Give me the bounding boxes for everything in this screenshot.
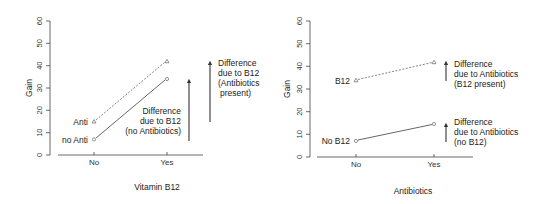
right-ann2-line3: (no B12) [454, 137, 487, 147]
left-ann2-line1: Difference [218, 58, 257, 68]
left-ann2-line2: due to B12 [218, 68, 259, 78]
right-b12-yes-marker [432, 60, 436, 64]
right-series-label-b12: B12 [335, 76, 350, 86]
right-x-axis: No Yes Antibiotics [317, 154, 473, 196]
left-series-label-anti: Anti [73, 117, 88, 127]
left-ytick-50: 50 [35, 39, 44, 47]
left-x-label: Vitamin B12 [134, 182, 180, 192]
right-ytick-40: 40 [295, 62, 304, 70]
right-series-no-b12-line [358, 125, 432, 141]
left-ytick-30: 30 [35, 84, 44, 92]
left-ytick-20: 20 [35, 106, 44, 114]
left-chart: 0 10 20 30 40 50 60 Gain No Yes Vitamin … [24, 17, 260, 192]
right-ytick-20: 20 [295, 108, 304, 116]
right-chart: 0 10 20 30 40 50 60 Gain No Yes Antibiot… [282, 17, 518, 196]
right-no-b12-yes-marker [432, 122, 435, 125]
left-ytick-0: 0 [35, 153, 44, 157]
left-ytick-40: 40 [35, 62, 44, 70]
left-anti-yes-marker [165, 59, 169, 63]
left-y-axis: 0 10 20 30 40 50 60 Gain [24, 17, 50, 157]
right-ann1-line3: (B12 present) [454, 79, 506, 89]
right-ytick-10: 10 [295, 130, 304, 138]
right-y-axis: 0 10 20 30 40 50 60 Gain [282, 17, 310, 159]
left-ytick-10: 10 [35, 129, 44, 137]
left-ann2-line3: (Antibiotics [218, 78, 260, 88]
left-ann1-line3: (no Antibiotics) [125, 126, 181, 136]
left-series-label-no-anti: no Anti [62, 135, 88, 145]
right-b12-no-marker [354, 78, 358, 82]
right-ytick-30: 30 [295, 85, 304, 93]
right-xtick-no: No [351, 160, 362, 169]
left-x-axis: No Yes Vitamin B12 [58, 152, 203, 192]
right-ann2-line2: due to Antibiotics [454, 127, 518, 137]
figure: 0 10 20 30 40 50 60 Gain No Yes Vitamin … [0, 0, 536, 204]
left-ann1-line1: Difference [142, 106, 181, 116]
left-xtick-yes: Yes [160, 158, 173, 167]
left-xtick-no: No [89, 158, 100, 167]
right-no-b12-no-marker [354, 139, 357, 142]
left-ann2-line4: present) [220, 88, 251, 98]
right-xtick-yes: Yes [427, 160, 440, 169]
left-ytick-60: 60 [35, 17, 44, 25]
left-no-anti-no-marker [92, 138, 95, 141]
right-ytick-60: 60 [295, 17, 304, 25]
right-ann1-line2: due to Antibiotics [454, 69, 518, 79]
right-ytick-0: 0 [295, 155, 304, 159]
left-anti-no-marker [92, 120, 96, 124]
right-ann1-line1: Difference [454, 59, 493, 69]
right-x-label: Antibiotics [394, 186, 433, 196]
right-ytick-50: 50 [295, 40, 304, 48]
right-series-b12-line [358, 63, 432, 80]
left-y-label: Gain [24, 79, 34, 97]
right-ann2-line1: Difference [454, 117, 493, 127]
right-series-label-no-b12: No B12 [322, 136, 351, 146]
left-ann1-line2: due to B12 [140, 116, 181, 126]
right-y-label: Gain [282, 80, 292, 98]
left-no-anti-yes-marker [165, 77, 168, 80]
